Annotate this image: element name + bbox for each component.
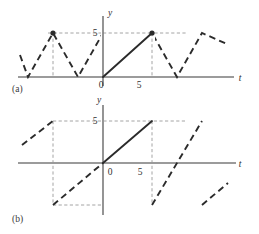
x-tick-label-5-a: 5 xyxy=(137,80,142,90)
panel-label-a: (a) xyxy=(12,84,23,94)
panel-label-b: (b) xyxy=(12,214,23,224)
x-axis-label-a: t xyxy=(239,73,242,83)
peak-marker-a-right xyxy=(149,30,154,35)
y-tick-label-5-b: 5 xyxy=(93,116,98,126)
x-axis-label-b: t xyxy=(239,159,242,169)
y-axis-label-b: y xyxy=(96,97,102,105)
chart-panel-b: y t 5 0 5 xyxy=(0,97,259,227)
curve-dashed-b-far-left xyxy=(22,121,53,145)
x-tick-label-5-b: 5 xyxy=(138,167,143,177)
y-axis-label-a: y xyxy=(107,8,113,18)
curve-dashed-b-far-right xyxy=(202,183,228,205)
curve-dashed-b-left xyxy=(53,163,103,205)
origin-label-b: 0 xyxy=(108,167,113,177)
chart-panel-a: y t 5 0 5 xyxy=(0,0,259,105)
figure-container: y t 5 0 5 (a) y t 5 0 5 ( xyxy=(0,0,259,234)
peak-marker-a-left xyxy=(50,30,55,35)
y-tick-label-5-a: 5 xyxy=(93,28,98,38)
curve-solid-b xyxy=(103,121,152,163)
origin-label-a: 0 xyxy=(99,80,104,90)
